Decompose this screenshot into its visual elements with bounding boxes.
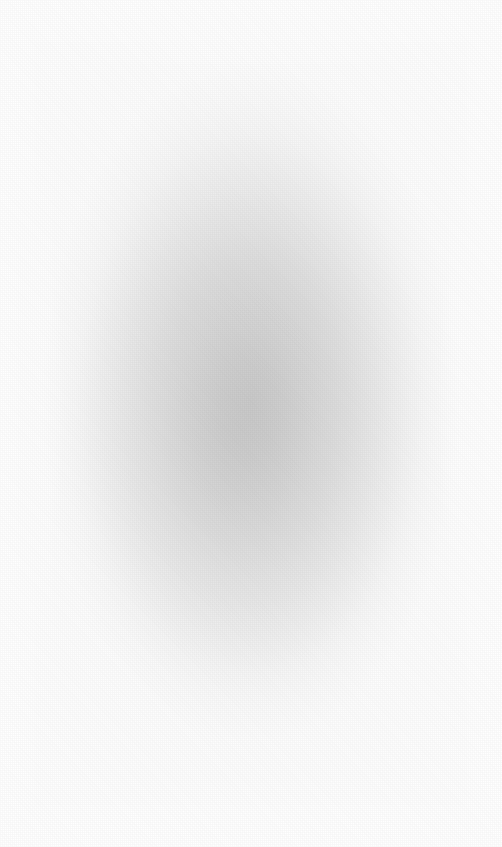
blurred-image-canvas bbox=[0, 0, 502, 847]
film-grain-texture bbox=[0, 0, 502, 847]
